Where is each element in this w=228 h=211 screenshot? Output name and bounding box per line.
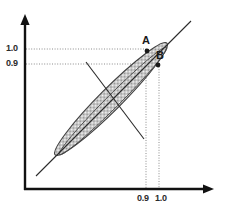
point-label-a: A [142, 35, 150, 46]
figure-canvas [0, 0, 228, 211]
x-axis-tick-label-0-9: 0.9 [137, 194, 149, 203]
x-axis-arrowhead [203, 184, 214, 193]
y-axis-arrowhead [20, 14, 29, 25]
x-axis-tick-label-1-0: 1.0 [155, 194, 167, 203]
y-axis-tick-label-1-0: 1.0 [6, 44, 18, 53]
point-marker-b[interactable] [156, 63, 161, 68]
correlation-ellipse-figure: 1.0 0.9 0.9 1.0 A B [0, 0, 228, 211]
point-label-b: B [156, 50, 164, 61]
y-axis-tick-label-0-9: 0.9 [6, 59, 18, 68]
point-marker-a[interactable] [145, 49, 150, 54]
